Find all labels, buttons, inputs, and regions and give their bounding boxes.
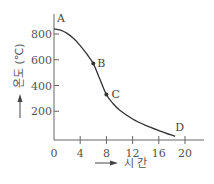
x-tick-label: 20 (178, 147, 192, 160)
point-marker-c (104, 93, 108, 97)
point-label-d: D (175, 121, 184, 134)
x-tick-label: 8 (103, 147, 110, 160)
y-axis-title: 온도 (℃) (13, 44, 26, 88)
point-marker-b (91, 62, 95, 66)
x-tick-label: 4 (77, 147, 84, 160)
y-axis-arrow-icon (18, 94, 23, 102)
series (54, 29, 175, 137)
chart: 048121620200400600800 ABCD 시 간 온도 (℃) (0, 0, 214, 184)
y-tick-label: 600 (31, 54, 52, 67)
x-tick-label: 16 (152, 147, 166, 160)
y-tick-label: 400 (31, 80, 52, 93)
point-label-a: A (56, 12, 66, 25)
x-tick-label: 0 (51, 147, 58, 160)
y-tick-label: 800 (31, 28, 52, 41)
y-tick-label: 200 (31, 105, 52, 118)
x-axis-arrow-icon (110, 161, 118, 166)
x-axis-title: 시 간 (124, 157, 148, 170)
temperature-curve (54, 29, 175, 137)
point-label-c: C (111, 88, 119, 101)
annotations: ABCD (56, 12, 184, 135)
point-label-b: B (97, 57, 105, 70)
